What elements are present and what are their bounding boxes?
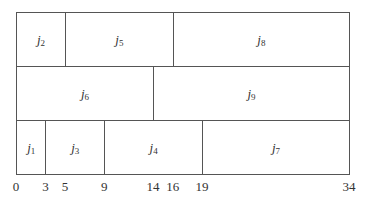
job-index: 7 (276, 146, 281, 156)
job-block-j9: j9 (153, 66, 350, 121)
axis-tick-label: 5 (62, 179, 69, 195)
job-index: 6 (85, 92, 90, 102)
axis-tick-label: 19 (196, 179, 209, 195)
job-index: 9 (251, 92, 256, 102)
job-index: 3 (75, 146, 80, 156)
axis-tick-label: 34 (343, 179, 356, 195)
job-index: 2 (41, 38, 46, 48)
axis-tick-label: 14 (147, 179, 160, 195)
job-block-j4: j4 (104, 120, 203, 175)
job-label: j2 (37, 32, 45, 48)
job-block-j3: j3 (45, 120, 105, 175)
job-block-j7: j7 (202, 120, 350, 175)
job-block-j6: j6 (16, 66, 154, 121)
axis-tick-label: 16 (166, 179, 179, 195)
axis-tick-label: 9 (101, 179, 108, 195)
job-block-j2: j2 (16, 12, 66, 67)
job-index: 4 (153, 146, 158, 156)
job-index: 5 (119, 38, 124, 48)
axis-tick-label: 0 (13, 179, 20, 195)
job-label: j8 (257, 32, 265, 48)
job-block-j1: j1 (16, 120, 46, 175)
job-label: j1 (27, 140, 35, 156)
job-index: 8 (261, 38, 266, 48)
job-label: j4 (150, 140, 158, 156)
job-label: j7 (272, 140, 280, 156)
job-label: j3 (71, 140, 79, 156)
axis-tick-label: 3 (42, 179, 49, 195)
job-label: j6 (81, 86, 89, 102)
job-label: j9 (247, 86, 255, 102)
job-label: j5 (115, 32, 123, 48)
job-block-j8: j8 (173, 12, 350, 67)
job-index: 1 (31, 146, 36, 156)
job-block-j5: j5 (65, 12, 174, 67)
